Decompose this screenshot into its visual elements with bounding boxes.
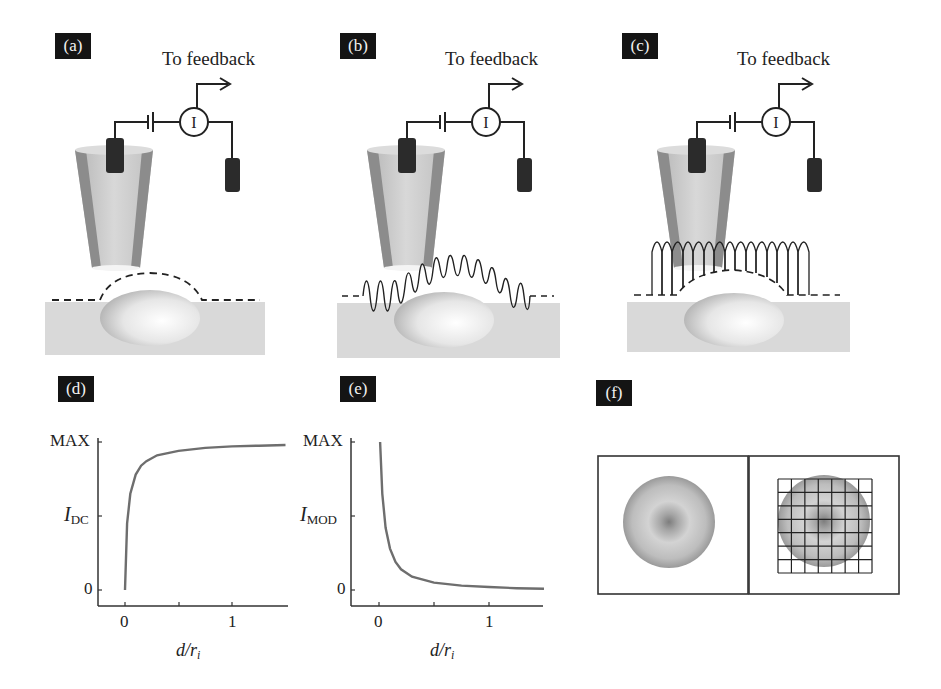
cell-c xyxy=(684,293,784,347)
y-tick-zero-e: 0 xyxy=(337,579,346,599)
curve-i-dc xyxy=(125,445,286,590)
y-tick-zero-d: 0 xyxy=(84,579,93,599)
x-tick-0-e: 0 xyxy=(374,612,383,632)
figure-canvas: I I I xyxy=(0,0,941,689)
current-meter-a: I xyxy=(191,114,196,131)
panel-f xyxy=(598,456,899,594)
current-meter-c: I xyxy=(773,114,778,131)
curve-i-mod xyxy=(380,442,544,589)
cell-b xyxy=(394,292,494,348)
y-tick-max-d: MAX xyxy=(50,431,90,451)
circuit-b xyxy=(367,78,532,271)
panel-b: I xyxy=(337,78,560,358)
y-axis-label-e: IMOD xyxy=(300,503,337,528)
x-tick-0-d: 0 xyxy=(120,612,129,632)
y-tick-max-e: MAX xyxy=(303,431,343,451)
chart-d xyxy=(98,438,288,606)
x-tick-1-d: 1 xyxy=(228,612,237,632)
cell-a xyxy=(100,290,200,346)
current-meter-b: I xyxy=(483,114,488,131)
panel-c: I xyxy=(627,78,850,352)
y-axis-label-d: IDC xyxy=(64,503,89,528)
x-tick-1-e: 1 xyxy=(485,612,494,632)
panel-a: I xyxy=(45,78,265,355)
cell-topography xyxy=(623,476,715,568)
x-axis-label-d: d/ri xyxy=(176,640,200,663)
circuit-a xyxy=(75,78,240,271)
chart-e xyxy=(351,438,544,606)
x-axis-label-e: d/ri xyxy=(430,640,454,663)
